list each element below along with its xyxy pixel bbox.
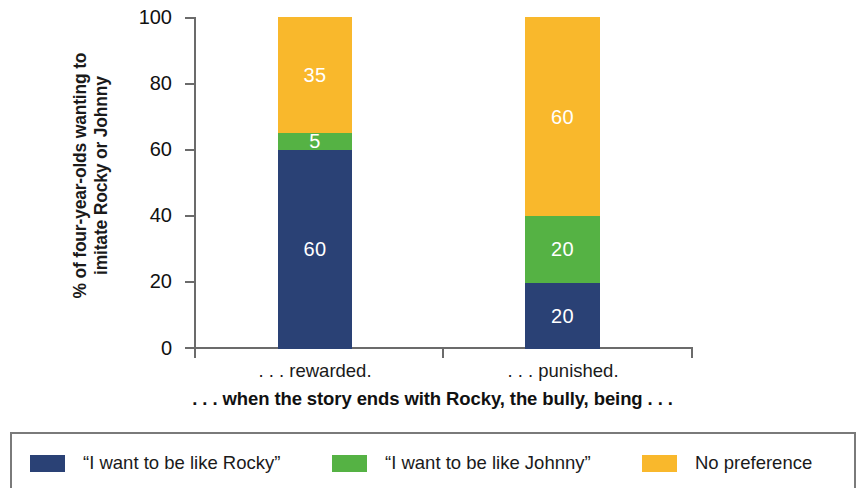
category-label-rewarded: . . . rewarded. bbox=[225, 360, 405, 382]
y-tick-mark-40 bbox=[185, 215, 194, 217]
bar-value-label: 5 bbox=[309, 131, 320, 151]
y-axis-tick-labels: 100 80 60 40 20 0 bbox=[126, 0, 172, 415]
bar-segment-johnny-punished: 20 bbox=[525, 216, 600, 282]
category-label-punished: . . . punished. bbox=[473, 360, 653, 382]
bar-segment-johnny-rewarded: 5 bbox=[278, 133, 352, 150]
y-tick-label-20: 20 bbox=[126, 271, 172, 291]
x-axis-caption: . . . when the story ends with Rocky, th… bbox=[0, 388, 865, 410]
legend-label-no-preference: No preference bbox=[695, 452, 812, 474]
y-tick-label-0: 0 bbox=[126, 338, 172, 358]
y-tick-label-80: 80 bbox=[126, 73, 172, 93]
y-axis-title-line-1: % of four-year-olds wanting to bbox=[70, 11, 91, 341]
y-tick-label-60: 60 bbox=[126, 139, 172, 159]
legend-item-rocky[interactable]: “I want to be like Rocky” bbox=[30, 452, 280, 474]
legend-label-rocky: “I want to be like Rocky” bbox=[83, 452, 280, 474]
bar-value-label: 60 bbox=[304, 239, 327, 259]
y-tick-label-40: 40 bbox=[126, 205, 172, 225]
bar-value-label: 60 bbox=[551, 107, 574, 127]
bar-value-label: 35 bbox=[304, 65, 327, 85]
y-axis-title: % of four-year-olds wanting to imitate R… bbox=[70, 11, 111, 341]
y-axis-title-line-2: imitate Rocky or Johnny bbox=[91, 11, 112, 341]
legend-swatch-blue-icon bbox=[30, 455, 65, 472]
chart-legend: “I want to be like Rocky” “I want to be … bbox=[10, 432, 856, 488]
bar-value-label: 20 bbox=[551, 239, 574, 259]
x-tick-mark-middle bbox=[442, 349, 444, 358]
bar-segment-rocky-rewarded: 60 bbox=[278, 150, 352, 349]
x-tick-mark-left bbox=[194, 349, 196, 358]
bar-segment-rocky-punished: 20 bbox=[525, 283, 600, 349]
y-tick-mark-0 bbox=[185, 347, 194, 349]
y-tick-label-100: 100 bbox=[126, 7, 172, 27]
legend-swatch-yellow-icon bbox=[642, 455, 677, 472]
stacked-bar-chart: % of four-year-olds wanting to imitate R… bbox=[0, 0, 865, 415]
bar-segment-no-preference-rewarded: 35 bbox=[278, 17, 352, 133]
legend-label-johnny: “I want to be like Johnny” bbox=[385, 452, 591, 474]
legend-item-no-preference[interactable]: No preference bbox=[642, 452, 812, 474]
y-tick-mark-20 bbox=[185, 281, 194, 283]
y-tick-mark-100 bbox=[185, 17, 194, 19]
bar-value-label: 20 bbox=[551, 306, 574, 326]
bar-stack-punished: 60 20 20 bbox=[525, 17, 600, 349]
x-tick-mark-right bbox=[691, 349, 693, 358]
legend-swatch-green-icon bbox=[332, 455, 367, 472]
y-tick-mark-60 bbox=[185, 149, 194, 151]
y-tick-mark-80 bbox=[185, 83, 194, 85]
bar-segment-no-preference-punished: 60 bbox=[525, 17, 600, 216]
legend-item-johnny[interactable]: “I want to be like Johnny” bbox=[332, 452, 591, 474]
y-axis-line bbox=[194, 17, 196, 349]
bar-stack-rewarded: 35 5 60 bbox=[278, 17, 352, 349]
